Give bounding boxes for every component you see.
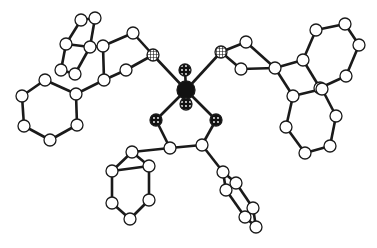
atom-c xyxy=(98,74,110,86)
atom-c xyxy=(120,64,132,76)
atom-c xyxy=(297,54,309,66)
atom-s xyxy=(150,114,162,126)
atom-c xyxy=(339,18,351,30)
atom-c xyxy=(18,120,30,132)
molecule-diagram xyxy=(0,0,377,248)
atom-p xyxy=(147,49,159,61)
atom-c xyxy=(196,139,208,151)
atom-c xyxy=(89,12,101,24)
atom-o xyxy=(180,98,192,110)
atom-c xyxy=(240,36,252,48)
atoms-layer xyxy=(16,12,365,233)
atom-c xyxy=(280,121,292,133)
atom-c xyxy=(127,27,139,39)
atom-c xyxy=(126,146,138,158)
atom-c xyxy=(220,184,232,196)
atom-c xyxy=(330,110,342,122)
atom-c xyxy=(217,166,229,178)
atom-s xyxy=(210,114,222,126)
atom-c xyxy=(164,142,176,154)
atom-c xyxy=(44,134,56,146)
atom-c xyxy=(84,41,96,53)
atom-c xyxy=(310,24,322,36)
atom-c xyxy=(340,70,352,82)
atom-c xyxy=(250,221,262,233)
atom-c xyxy=(239,211,251,223)
atom-c xyxy=(70,88,82,100)
atom-c xyxy=(353,39,365,51)
atom-c xyxy=(39,74,51,86)
atom-c xyxy=(55,64,67,76)
atom-c xyxy=(235,63,247,75)
atom-c xyxy=(143,160,155,172)
atom-p xyxy=(215,46,227,58)
atom-c xyxy=(299,147,311,159)
atom-c xyxy=(324,140,336,152)
atom-c xyxy=(316,83,328,95)
atom-o xyxy=(179,64,191,76)
atom-c xyxy=(269,62,281,74)
atom-c xyxy=(106,165,118,177)
atom-c xyxy=(124,213,136,225)
atom-c xyxy=(69,68,81,80)
atom-c xyxy=(97,40,109,52)
atom-c xyxy=(16,90,28,102)
atom-c xyxy=(60,38,72,50)
atom-c xyxy=(71,119,83,131)
atom-c xyxy=(143,194,155,206)
atom-c xyxy=(287,90,299,102)
atom-c xyxy=(106,197,118,209)
atom-metal xyxy=(177,81,195,99)
atom-c xyxy=(75,14,87,26)
